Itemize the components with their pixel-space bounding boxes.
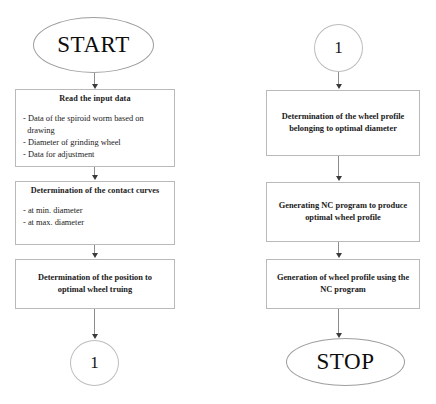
text-line: Generating NC program to produce (279, 200, 408, 212)
text-line: belonging to optimal diameter (282, 123, 405, 135)
step-contact-curves: Determination of the contact curves - at… (15, 181, 175, 245)
step-determine-wheel-profile-lines: Determination of the wheel profile belon… (282, 111, 405, 135)
list-item: drawing (23, 125, 169, 137)
list-item: - at max. diameter (23, 217, 169, 229)
connector-nc-program-to-generate-profile (338, 242, 339, 259)
step-generating-nc-program: Generating NC program to produce optimal… (266, 182, 420, 242)
step-read-input-data-items: - Data of the spiroid worm based on draw… (22, 113, 169, 161)
list-item: - at min. diameter (23, 205, 169, 217)
connector-one-to-wheel-profile (338, 72, 339, 90)
text-line: optimal wheel profile (279, 212, 408, 224)
text-line: Determination of the position to (38, 272, 152, 284)
step-position-optimal-truing: Determination of the position to optimal… (15, 259, 175, 309)
connector-wheel-profile-to-nc-program (338, 156, 339, 182)
stop-terminal: STOP (286, 338, 405, 386)
connector-circle-one-in-label: 1 (334, 38, 343, 58)
text-line: NC program (277, 284, 409, 296)
step-read-input-data: Read the input data - Data of the spiroi… (15, 89, 175, 167)
connector-circle-one-in: 1 (314, 24, 363, 72)
connector-generate-profile-to-stop (338, 309, 339, 339)
connector-circle-one-out: 1 (70, 340, 119, 386)
start-terminal-label: START (57, 32, 130, 58)
connector-circle-one-out-label: 1 (90, 353, 99, 373)
connector-position-truing-to-connector-one (94, 309, 95, 340)
step-read-input-data-title: Read the input data (22, 94, 168, 104)
step-contact-curves-title: Determination of the contact curves (22, 186, 168, 196)
step-generation-wheel-profile: Generation of wheel profile using the NC… (266, 259, 420, 309)
text-line: Generation of wheel profile using the (277, 272, 409, 284)
list-item: - Data of the spiroid worm based on (23, 113, 169, 125)
connector-start-to-read-input (94, 73, 95, 89)
step-generation-wheel-profile-lines: Generation of wheel profile using the NC… (277, 272, 409, 296)
connector-read-input-to-contact-curves (94, 167, 95, 181)
step-contact-curves-items: - at min. diameter - at max. diameter (22, 205, 169, 229)
step-position-optimal-truing-lines: Determination of the position to optimal… (38, 272, 152, 296)
stop-terminal-label: STOP (316, 349, 374, 375)
connector-contact-curves-to-position-truing (94, 245, 95, 259)
list-item: - Data for adjustment (23, 149, 169, 161)
step-generating-nc-program-lines: Generating NC program to produce optimal… (279, 200, 408, 224)
flowchart-canvas: START Read the input data - Data of the … (0, 0, 436, 404)
step-determine-wheel-profile: Determination of the wheel profile belon… (266, 90, 420, 156)
list-item: - Diameter of grinding wheel (23, 137, 169, 149)
text-line: optimal wheel truing (38, 284, 152, 296)
text-line: Determination of the wheel profile (282, 111, 405, 123)
start-terminal: START (33, 17, 154, 73)
